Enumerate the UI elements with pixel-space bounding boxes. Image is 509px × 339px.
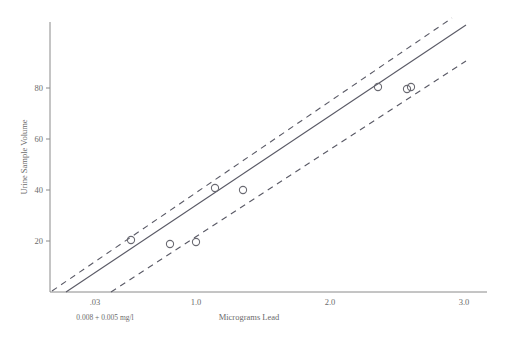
lower-band-line: [111, 61, 466, 292]
y-tick-label-20: 20: [35, 236, 44, 246]
detection-limit-annotation: 0.008 + 0.005 mg/l: [76, 313, 133, 322]
y-axis-title: Urine Sample Volume: [19, 119, 29, 194]
regression-fit-line: [66, 25, 466, 292]
confidence-band-upper: [52, 18, 452, 291]
data-point-marker: [166, 240, 173, 247]
y-tick-label-40: 40: [35, 185, 44, 195]
x-axis-ticks: .03 1.0 2.0 3.0: [90, 297, 470, 307]
upper-band-line: [52, 18, 452, 291]
x-tick-label-2-0: 2.0: [325, 297, 336, 307]
data-points: [127, 83, 414, 247]
data-point-marker: [192, 238, 199, 245]
chart-figure: 20 40 60 80 .03 1.0 2.0 3.0 0.008 + 0.00…: [0, 0, 509, 339]
regression-line-group: [66, 25, 466, 292]
y-tick-label-60: 60: [35, 134, 44, 144]
y-axis-ticks: 20 40 60 80: [35, 83, 51, 246]
confidence-band-lower: [111, 61, 466, 292]
x-tick-label-3-0: 3.0: [459, 297, 470, 307]
data-point-marker: [127, 236, 134, 243]
y-tick-label-80: 80: [35, 83, 44, 93]
x-tick-label-0-03: .03: [90, 297, 101, 307]
x-axis-title: Micrograms Lead: [219, 312, 280, 322]
x-tick-label-1-0: 1.0: [191, 297, 202, 307]
data-point-marker: [239, 186, 246, 193]
data-point-marker: [374, 83, 381, 90]
data-point-marker: [211, 184, 218, 191]
calibration-scatter-plot: 20 40 60 80 .03 1.0 2.0 3.0 0.008 + 0.00…: [0, 0, 509, 339]
